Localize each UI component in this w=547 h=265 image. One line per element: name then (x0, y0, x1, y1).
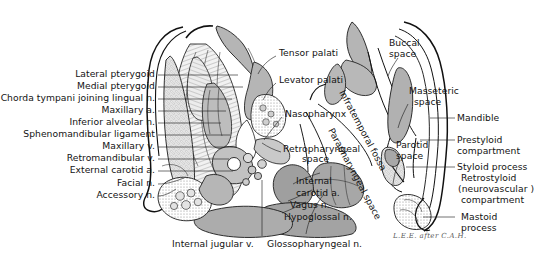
label-inferior-alveolar-nerve: Inferior alveolar n. (69, 116, 155, 128)
label-chorda-tympani: Chorda tympani joining lingual n. (1, 92, 155, 104)
label-maxillary-vein: Maxillary v. (102, 140, 155, 152)
label-retrostyloid: Retrostyloid (461, 172, 516, 184)
label-facial-nerve: Facial n. (117, 177, 155, 189)
label-buccal-space: Buccal (389, 37, 420, 49)
label-retropharyngeal-space-line2: space (302, 153, 329, 165)
label-tensor-palati: Tensor palati (279, 47, 338, 59)
label-masseteric-space: Masseteric (409, 85, 459, 97)
label-retromandibular-vein: Retromandibular v. (67, 152, 155, 164)
label-prestyloid-line2: compartment (457, 145, 520, 157)
label-buccal-space-line2: space (389, 48, 416, 60)
label-retrostyloid-line3: compartment (461, 194, 524, 206)
label-accessory-nerve: Accessory n. (96, 189, 155, 201)
label-masseteric-space-line2: space (414, 96, 441, 108)
anatomy-figure: Lateral pterygoid Medial pterygoid Chord… (0, 0, 547, 265)
label-internal-carotid-artery: Internal (296, 175, 332, 187)
label-styloid-process: Styloid process (457, 161, 527, 173)
label-prestyloid: Prestyloid (457, 134, 503, 146)
label-internal-jugular-vein: Internal jugular v. (172, 238, 254, 250)
label-hypoglossal-nerve: Hypoglossal n. (284, 211, 352, 223)
label-external-carotid-artery: External carotid a. (70, 164, 155, 176)
label-sphenomandibular-ligament: Sphenomandibular ligament (23, 128, 155, 140)
label-retrostyloid-line2: (neurovascular ) (458, 183, 534, 195)
label-levator-palati: Levator palati (279, 74, 343, 86)
label-parotid-space: Parotid (396, 139, 428, 151)
label-internal-carotid-artery-line2: carotid a. (296, 187, 340, 199)
label-nasopharynx: Nasopharynx (285, 108, 346, 120)
label-lateral-pterygoid: Lateral pterygoid (75, 68, 155, 80)
label-parotid-space-line2: space (396, 150, 423, 162)
label-medial-pterygoid: Medial pterygoid (77, 80, 155, 92)
artist-signature: L.E.E. after C.A.H. (393, 232, 467, 240)
label-maxillary-artery: Maxillary a. (101, 104, 155, 116)
label-glossopharyngeal-nerve: Glossopharyngeal n. (267, 238, 362, 250)
label-mandible: Mandible (457, 112, 499, 124)
label-mastoid-process: Mastoid (461, 211, 497, 223)
label-vagus-nerve: Vagus n. (290, 199, 330, 211)
